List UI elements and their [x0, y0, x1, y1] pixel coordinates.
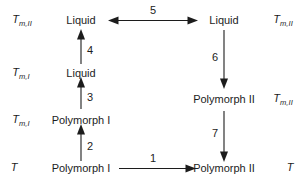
- temp-base: T: [12, 66, 19, 78]
- arrow-label-1: 1: [150, 152, 156, 164]
- temp-subscript: m,I: [19, 119, 30, 128]
- temp-label-right-row4: T: [287, 161, 294, 175]
- temp-base: T: [287, 161, 294, 173]
- temp-label-left-row2: Tm,I: [12, 66, 29, 80]
- node-polymorph-i-mid-left: Polymorph I: [52, 114, 111, 126]
- temp-subscript: m,I: [19, 72, 30, 81]
- node-liquid-top-right: Liquid: [209, 14, 238, 26]
- temp-label-left-row3: Tm,I: [12, 113, 29, 127]
- arrow-6-shape: [220, 30, 228, 89]
- node-polymorph-i-bottom: Polymorph I: [52, 162, 111, 174]
- polymorph-thermodynamic-cycle-diagram: Tm,II Tm,I Tm,I T Tm,II Tm,II T Liquid L…: [0, 0, 307, 184]
- arrow-1-shape: [119, 165, 196, 173]
- arrow-3-shape: [77, 77, 85, 109]
- temp-subscript: m,II: [280, 98, 293, 107]
- node-polymorph-ii-bottom: Polymorph II: [193, 162, 255, 174]
- arrow-2-shape: [77, 124, 85, 161]
- arrow-5-shape: [108, 17, 198, 25]
- arrow-label-2: 2: [87, 140, 93, 152]
- temp-base: T: [273, 92, 280, 104]
- temp-label-left-row4: T: [11, 161, 18, 175]
- arrow-label-6: 6: [212, 51, 218, 63]
- temp-base: T: [12, 13, 19, 25]
- node-polymorph-ii-mid-right: Polymorph II: [193, 93, 255, 105]
- node-liquid-top-left: Liquid: [66, 14, 95, 26]
- temp-subscript: m,II: [19, 19, 32, 28]
- arrow-label-4: 4: [87, 44, 93, 56]
- temp-label-right-row3: Tm,II: [273, 92, 293, 106]
- temp-base: T: [12, 113, 19, 125]
- temp-subscript: m,II: [280, 19, 293, 28]
- arrow-label-5: 5: [150, 4, 156, 16]
- temp-label-left-row1: Tm,II: [12, 13, 32, 27]
- arrow-7-shape: [220, 111, 228, 162]
- node-liquid-mid-left: Liquid: [66, 67, 95, 79]
- temp-label-right-row1: Tm,II: [273, 13, 293, 27]
- temp-base: T: [11, 161, 18, 173]
- arrow-label-3: 3: [87, 91, 93, 103]
- arrow-label-7: 7: [212, 127, 218, 139]
- arrow-4-shape: [77, 29, 85, 64]
- temp-base: T: [273, 13, 280, 25]
